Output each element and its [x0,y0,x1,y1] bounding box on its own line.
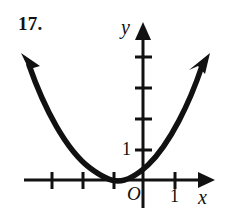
graph-canvas [0,0,225,220]
parabola-curve [29,65,202,181]
x-axis-label: x [198,187,207,207]
figure-container: 17. y x O 1 1 [0,0,225,220]
y-axis-arrowhead [135,22,151,40]
y-axis-tick-label-1: 1 [122,140,131,158]
origin-label: O [127,184,141,203]
y-axis-label: y [121,17,130,37]
x-axis-tick-label-1: 1 [170,187,179,205]
